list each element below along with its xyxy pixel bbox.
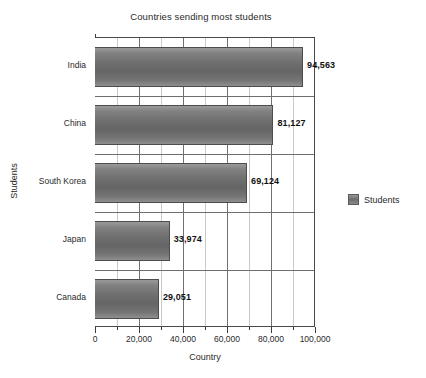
value-label-japan: 33,974	[174, 234, 202, 244]
x-tick-minor	[249, 327, 250, 330]
legend-label-students: Students	[364, 195, 400, 205]
x-tick-label: 20,000	[126, 334, 152, 344]
category-label-japan: Japan	[0, 234, 86, 244]
category-label-india: India	[0, 60, 86, 70]
legend-swatch-students	[348, 194, 359, 205]
x-tick-major	[95, 327, 96, 333]
bar-south-korea[interactable]	[95, 163, 247, 203]
x-tick-major	[271, 327, 272, 333]
x-tick-label: 80,000	[258, 334, 284, 344]
chart-title-text: Countries sending most students	[130, 11, 271, 22]
plot-area	[95, 37, 315, 327]
bar-japan[interactable]	[95, 221, 170, 261]
x-tick-major	[227, 327, 228, 333]
category-separator	[95, 270, 314, 271]
x-tick-major	[183, 327, 184, 333]
bar-chart: Countries sending most students IndiaChi…	[0, 0, 426, 378]
x-tick-major	[139, 327, 140, 333]
x-tick-label: 0	[93, 334, 98, 344]
value-label-south-korea: 69,124	[251, 176, 279, 186]
x-tick-major	[315, 327, 316, 333]
x-tick-minor	[161, 327, 162, 330]
bar-canada[interactable]	[95, 279, 159, 319]
x-axis-title: Country	[95, 352, 315, 362]
category-separator	[95, 212, 314, 213]
x-tick-label: 60,000	[214, 334, 240, 344]
x-tick-label: 40,000	[170, 334, 196, 344]
x-tick-minor	[293, 327, 294, 330]
value-label-india: 94,563	[307, 60, 335, 70]
bar-india[interactable]	[95, 47, 303, 87]
y-axis-title: Students	[9, 163, 19, 199]
legend: Students	[348, 194, 400, 205]
x-tick-label: 100,000	[300, 334, 331, 344]
category-separator	[95, 154, 314, 155]
x-tick-minor	[205, 327, 206, 330]
value-label-china: 81,127	[277, 118, 305, 128]
bar-china[interactable]	[95, 105, 273, 145]
category-label-canada: Canada	[0, 292, 86, 302]
category-label-china: China	[0, 118, 86, 128]
category-separator	[95, 96, 314, 97]
value-label-canada: 29,051	[163, 292, 191, 302]
x-tick-minor	[117, 327, 118, 330]
chart-title: Countries sending most students	[0, 11, 426, 22]
